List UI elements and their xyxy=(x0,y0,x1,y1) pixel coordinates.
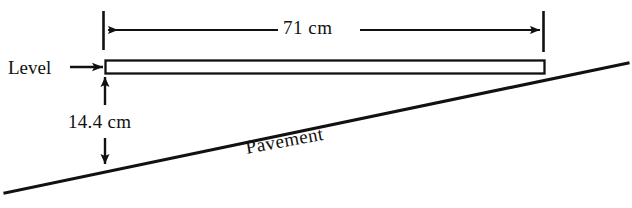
level-bar xyxy=(106,61,545,74)
height-dimension-label: 14.4 cm xyxy=(68,112,131,131)
pavement-slope-diagram: Level 71 cm 14.4 cm Pavement xyxy=(0,0,632,208)
span-dimension-label: 71 cm xyxy=(283,18,332,37)
level-label: Level xyxy=(8,58,51,77)
